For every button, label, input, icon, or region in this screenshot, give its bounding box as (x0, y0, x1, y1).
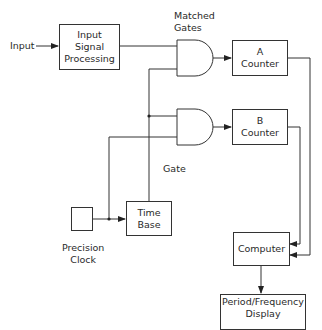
precision-clock-line1: Precision (62, 242, 104, 254)
precision-clock-label: Precision Clock (62, 242, 104, 266)
isp-line3: Processing (64, 53, 115, 65)
computer-label: Computer (238, 243, 285, 255)
input-signal-processing-block: Input Signal Processing (59, 24, 120, 70)
b-counter-block: B Counter (232, 109, 288, 145)
b-counter-line2: Counter (241, 127, 279, 139)
matched-gates-label: Matched Gates (174, 10, 215, 34)
a-counter-line1: A (257, 46, 264, 58)
time-base-line1: Time (137, 207, 160, 219)
b-counter-to-computer-arrow (288, 127, 300, 244)
input-label: Input (10, 40, 35, 52)
time-base-line2: Base (137, 219, 160, 231)
display-line2: Display (245, 308, 280, 320)
a-counter-line2: Counter (241, 58, 279, 70)
and-gate-a-icon (177, 40, 213, 76)
and-gate-b-icon (177, 109, 213, 145)
isp-line1: Input (77, 29, 102, 41)
display-line1: Period/Frequency (222, 296, 304, 308)
isp-line2: Signal (75, 41, 104, 53)
precision-clock-line2: Clock (62, 254, 104, 266)
time-base-block: Time Base (126, 201, 172, 236)
b-counter-line1: B (257, 115, 264, 127)
a-counter-block: A Counter (232, 40, 288, 76)
computer-block: Computer (233, 232, 290, 266)
gate-wire-time-base (149, 69, 177, 201)
precision-clock-block (71, 207, 93, 231)
a-counter-to-computer-arrow (288, 58, 310, 255)
junction-dot (107, 217, 110, 220)
junction-dot (147, 114, 150, 117)
gate-label: Gate (163, 163, 186, 175)
matched-gates-line1: Matched (174, 10, 215, 22)
matched-gates-line2: Gates (174, 22, 215, 34)
display-block: Period/Frequency Display (220, 294, 306, 330)
